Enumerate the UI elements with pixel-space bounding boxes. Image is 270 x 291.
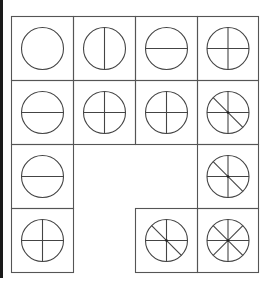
divided-circle-icon xyxy=(207,220,249,262)
grid-cell xyxy=(12,17,74,81)
grid-cell xyxy=(12,209,74,273)
circle-pattern-grid xyxy=(0,0,270,291)
grid-cell xyxy=(198,145,259,209)
grid-cell xyxy=(74,81,136,145)
divided-circle-icon xyxy=(207,92,249,134)
divided-circle-icon xyxy=(146,92,188,134)
divided-circle-icon xyxy=(22,156,64,198)
cell-border xyxy=(12,17,74,81)
divided-circle-icon xyxy=(22,92,64,134)
grid-cell xyxy=(136,81,198,145)
divided-circle-icon xyxy=(207,156,249,198)
grid-cell xyxy=(198,17,259,81)
grid-cell xyxy=(12,145,74,209)
grid-cell xyxy=(136,209,198,273)
divided-circle-icon xyxy=(84,92,126,134)
grid-cell xyxy=(12,81,74,145)
divided-circle-icon xyxy=(207,28,249,70)
divided-circle-icon xyxy=(84,28,126,70)
grid-cell xyxy=(198,81,259,145)
divided-circle-icon xyxy=(146,28,188,70)
grid-cell xyxy=(198,209,259,273)
grid-cell xyxy=(136,17,198,81)
grid-cell xyxy=(74,17,136,81)
divided-circle-icon xyxy=(22,28,64,70)
divided-circle-icon xyxy=(146,220,188,262)
divided-circle-icon xyxy=(22,220,64,262)
